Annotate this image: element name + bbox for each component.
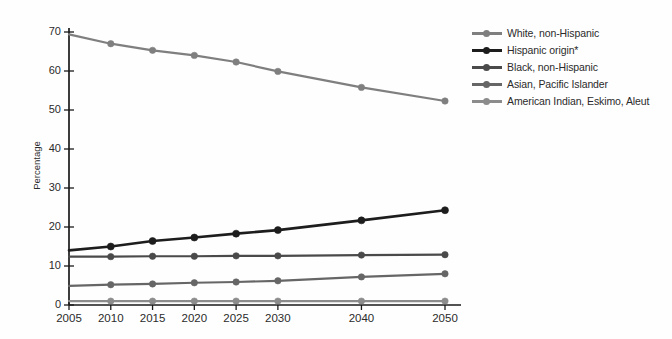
data-point	[358, 252, 364, 258]
y-tick-label: 0	[31, 298, 61, 310]
legend-dot-swatch	[483, 30, 490, 37]
y-tick-label: 10	[31, 259, 61, 271]
data-point	[108, 282, 114, 288]
data-point	[149, 238, 156, 245]
x-tick-label: 2010	[89, 312, 133, 324]
x-tick-label: 2040	[339, 312, 383, 324]
chart-figure: Percentage 010203040506070 2005201020152…	[0, 0, 672, 339]
x-tick-label: 2030	[256, 312, 300, 324]
series-line-2	[69, 255, 445, 257]
data-point	[107, 243, 114, 250]
series-line-3	[69, 274, 445, 286]
legend-item-label: Black, non-Hispanic	[507, 62, 598, 73]
data-point	[149, 281, 155, 287]
data-point	[108, 298, 114, 304]
legend-item-4[interactable]: American Indian, Eskimo, Aleut	[472, 94, 668, 109]
data-point	[274, 227, 281, 234]
data-point	[275, 298, 281, 304]
legend-marker-icon	[472, 28, 502, 39]
legend-dot-swatch	[483, 98, 490, 105]
data-point	[442, 271, 448, 277]
data-point	[358, 84, 364, 90]
legend-item-2[interactable]: Black, non-Hispanic	[472, 60, 668, 75]
data-point	[149, 253, 155, 259]
data-point	[358, 298, 364, 304]
data-point	[191, 234, 198, 241]
data-point	[358, 274, 364, 280]
data-point	[149, 298, 155, 304]
data-point	[191, 280, 197, 286]
data-point	[233, 59, 239, 65]
legend-item-label: White, non-Hispanic	[507, 28, 599, 39]
y-tick-label: 60	[31, 64, 61, 76]
legend-dot-swatch	[483, 47, 490, 54]
data-point	[149, 47, 155, 53]
y-tick-label: 40	[31, 142, 61, 154]
x-tick-label: 2015	[131, 312, 175, 324]
series-line-1	[69, 210, 445, 250]
legend-marker-icon	[472, 96, 502, 107]
x-tick-label: 2025	[214, 312, 258, 324]
data-point	[191, 253, 197, 259]
legend-item-label: American Indian, Eskimo, Aleut	[507, 96, 649, 107]
series-line-0	[69, 34, 445, 101]
x-tick-label: 2005	[47, 312, 91, 324]
legend-item-label: Asian, Pacific Islander	[507, 79, 608, 90]
data-point	[233, 253, 239, 259]
legend-marker-icon	[472, 45, 502, 56]
chart-legend: White, non-HispanicHispanic origin*Black…	[472, 26, 668, 111]
legend-marker-icon	[472, 79, 502, 90]
x-tick-label: 2050	[423, 312, 467, 324]
y-tick-label: 50	[31, 103, 61, 115]
data-point	[275, 68, 281, 74]
legend-dot-swatch	[483, 81, 490, 88]
legend-item-1[interactable]: Hispanic origin*	[472, 43, 668, 58]
data-point	[275, 278, 281, 284]
y-tick-label: 20	[31, 220, 61, 232]
data-point	[108, 41, 114, 47]
legend-item-0[interactable]: White, non-Hispanic	[472, 26, 668, 41]
legend-item-3[interactable]: Asian, Pacific Islander	[472, 77, 668, 92]
legend-dot-swatch	[483, 64, 490, 71]
legend-item-label: Hispanic origin*	[507, 45, 578, 56]
data-point	[442, 207, 449, 214]
data-point	[233, 279, 239, 285]
data-point	[108, 253, 114, 259]
data-point	[233, 230, 240, 237]
data-point	[442, 298, 448, 304]
y-tick-label: 30	[31, 181, 61, 193]
legend-marker-icon	[472, 62, 502, 73]
y-tick-label: 70	[31, 25, 61, 37]
data-point	[442, 251, 448, 257]
data-point	[191, 52, 197, 58]
data-point	[358, 217, 365, 224]
data-point	[442, 98, 448, 104]
data-point	[233, 298, 239, 304]
x-tick-label: 2020	[172, 312, 216, 324]
data-point	[275, 253, 281, 259]
data-point	[191, 298, 197, 304]
